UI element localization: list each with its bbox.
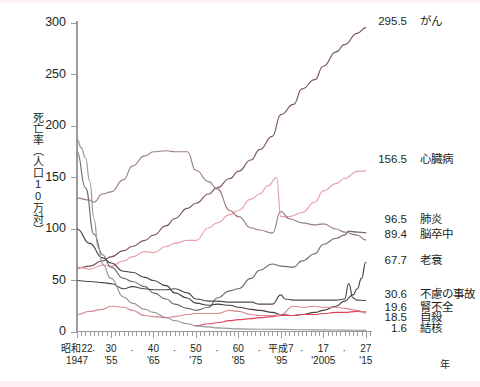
- x-tick-minor: [247, 332, 248, 336]
- x-tick-minor: [209, 332, 210, 336]
- x-tick-minor: [102, 332, 103, 336]
- x-tick-minor: [345, 332, 346, 336]
- x-tick-minor: [362, 332, 363, 336]
- plot-area: [77, 23, 370, 332]
- y-tick-mark: [71, 280, 76, 281]
- x-tick-minor: [90, 332, 91, 336]
- series-callout: 295.5がん: [373, 15, 442, 27]
- x-tick-minor: [221, 332, 222, 336]
- x-tick-major: [323, 332, 324, 338]
- series-end-value: 1.6: [373, 322, 407, 334]
- series-end-value: 30.6: [373, 288, 407, 300]
- x-tick-major: [196, 332, 197, 338]
- series-line: [77, 306, 366, 317]
- x-tick-major: [111, 332, 112, 338]
- x-tick-minor: [264, 332, 265, 336]
- x-tick-minor: [175, 332, 176, 336]
- y-tick-mark: [71, 229, 76, 230]
- x-tick-minor: [370, 332, 371, 336]
- x-tick-minor: [315, 332, 316, 336]
- series-callout: 96.5肺炎: [373, 213, 442, 225]
- x-tick-minor: [85, 332, 86, 336]
- x-tick-minor: [170, 332, 171, 336]
- x-tick-minor: [319, 332, 320, 336]
- x-tick-minor: [124, 332, 125, 336]
- y-tick-label: 50: [26, 274, 66, 286]
- y-tick-label: 100: [26, 222, 66, 234]
- series-line: [77, 281, 366, 305]
- series-line: [77, 151, 366, 240]
- x-tick-minor: [340, 332, 341, 336]
- x-tick-minor: [94, 332, 95, 336]
- bottom-edge-tint: [0, 381, 480, 387]
- x-tick-minor: [277, 332, 278, 336]
- x-tick-minor: [289, 332, 290, 336]
- series-end-value: 89.4: [373, 228, 407, 240]
- x-tick-major: [281, 332, 282, 338]
- x-tick-minor: [158, 332, 159, 336]
- series-name: 結核: [420, 322, 442, 334]
- x-tick-minor: [200, 332, 201, 336]
- x-tick-minor: [230, 332, 231, 336]
- x-tick-minor: [141, 332, 142, 336]
- series-line: [77, 152, 366, 311]
- series-callout: 30.6不慮の事故: [373, 288, 475, 300]
- x-tick-minor: [243, 332, 244, 336]
- x-tick-minor: [285, 332, 286, 336]
- x-tick-minor: [332, 332, 333, 336]
- y-tick-label: 150: [26, 171, 66, 183]
- x-tick-minor: [353, 332, 354, 336]
- x-tick-minor: [115, 332, 116, 336]
- x-tick-major: [153, 332, 154, 338]
- series-line: [77, 28, 366, 269]
- x-tick-minor: [311, 332, 312, 336]
- x-tick-major: [77, 332, 78, 338]
- x-tick-minor: [336, 332, 337, 336]
- x-tick-minor: [328, 332, 329, 336]
- y-tick-label: 300: [26, 16, 66, 28]
- x-tick-minor: [217, 332, 218, 336]
- y-tick-mark: [71, 177, 76, 178]
- series-callout: 67.7老衰: [373, 254, 442, 266]
- x-tick-minor: [268, 332, 269, 336]
- x-tick-minor: [294, 332, 295, 336]
- x-tick-minor: [298, 332, 299, 336]
- x-tick-minor: [306, 332, 307, 336]
- y-tick-mark: [71, 23, 76, 24]
- x-tick-minor: [302, 332, 303, 336]
- x-tick-minor: [226, 332, 227, 336]
- x-tick-minor: [98, 332, 99, 336]
- x-tick-minor: [107, 332, 108, 336]
- x-tick-minor: [204, 332, 205, 336]
- x-tick-minor: [119, 332, 120, 336]
- x-axis-unit-label: 年: [440, 356, 450, 371]
- x-tick-minor: [234, 332, 235, 336]
- y-tick-mark: [71, 332, 76, 333]
- x-tick-minor: [192, 332, 193, 336]
- series-end-value: 67.7: [373, 254, 407, 266]
- series-callout: 89.4脳卒中: [373, 228, 453, 240]
- x-tick-minor: [128, 332, 129, 336]
- x-tick-minor: [251, 332, 252, 336]
- series-line: [77, 229, 366, 316]
- x-tick-minor: [255, 332, 256, 336]
- series-name: 老衰: [420, 254, 442, 266]
- y-tick-label: 0: [26, 325, 66, 337]
- series-line: [196, 311, 366, 325]
- x-tick-minor: [136, 332, 137, 336]
- x-tick-minor: [357, 332, 358, 336]
- series-end-value: 156.5: [373, 153, 407, 165]
- x-tick-label-era: 27: [336, 343, 396, 354]
- x-tick-label-western: '15: [336, 355, 396, 366]
- chart-root: 死亡率（人口10万対） 050100150200250300 昭和221947·…: [0, 0, 480, 387]
- y-tick-mark: [71, 74, 76, 75]
- y-tick-label: 250: [26, 68, 66, 80]
- x-tick-minor: [145, 332, 146, 336]
- x-tick-minor: [132, 332, 133, 336]
- x-tick-minor: [166, 332, 167, 336]
- x-tick-minor: [213, 332, 214, 336]
- x-tick-minor: [349, 332, 350, 336]
- x-tick-minor: [260, 332, 261, 336]
- series-end-value: 295.5: [373, 15, 407, 27]
- series-name: 脳卒中: [420, 228, 453, 240]
